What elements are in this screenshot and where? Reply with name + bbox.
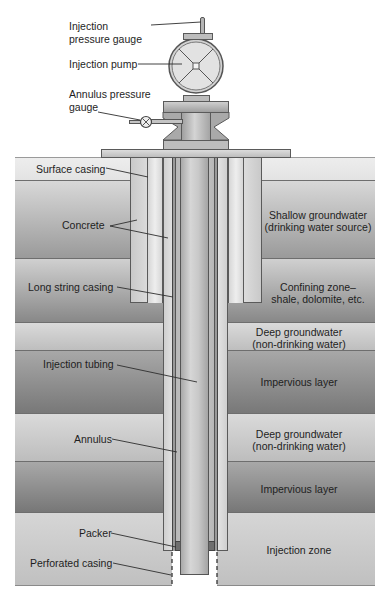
label-deep-groundwater-1: Deep groundwater (non-drinking water) bbox=[243, 326, 355, 350]
label-injection-zone: Injection zone bbox=[243, 544, 355, 556]
label-shallow-groundwater: Shallow groundwater (drinking water sour… bbox=[262, 209, 374, 233]
label-impervious-layer-1: Impervious layer bbox=[243, 376, 355, 388]
label-annulus-pressure-gauge: Annulus pressure gauge bbox=[69, 88, 151, 114]
label-perforated-casing: Perforated casing bbox=[30, 557, 112, 569]
label-deep-groundwater-1-line1: Deep groundwater bbox=[243, 326, 355, 338]
label-injection-pump: Injection pump bbox=[69, 58, 137, 70]
label-annulus: Annulus bbox=[74, 433, 112, 445]
label-packer: Packer bbox=[79, 527, 112, 539]
label-long-string-casing: Long string casing bbox=[28, 281, 113, 293]
label-deep-groundwater-2-line1: Deep groundwater bbox=[243, 428, 355, 440]
label-concrete: Concrete bbox=[62, 219, 105, 231]
label-confining-zone-line2: shale, dolomite, etc. bbox=[262, 293, 374, 305]
label-deep-groundwater-2-line2: (non-drinking water) bbox=[243, 440, 355, 452]
label-shallow-groundwater-line1: Shallow groundwater bbox=[262, 209, 374, 221]
label-surface-casing: Surface casing bbox=[36, 163, 105, 175]
label-shallow-groundwater-line2: (drinking water source) bbox=[262, 221, 374, 233]
label-deep-groundwater-1-line2: (non-drinking water) bbox=[243, 338, 355, 350]
label-impervious-layer-2: Impervious layer bbox=[243, 483, 355, 495]
label-injection-tubing: Injection tubing bbox=[43, 358, 114, 370]
label-confining-zone: Confining zone– shale, dolomite, etc. bbox=[262, 281, 374, 305]
label-deep-groundwater-2: Deep groundwater (non-drinking water) bbox=[243, 428, 355, 452]
label-confining-zone-line1: Confining zone– bbox=[262, 281, 374, 293]
label-injection-pressure-gauge: Injection pressure gauge bbox=[69, 20, 151, 46]
